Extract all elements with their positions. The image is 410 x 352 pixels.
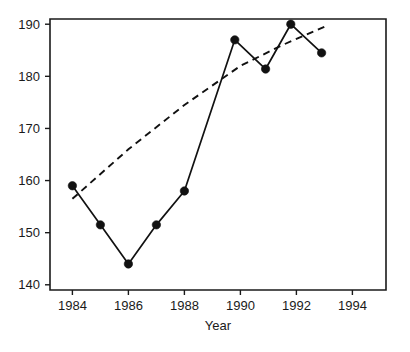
x-tick-label: 1984: [58, 298, 87, 313]
data-point-marker: [68, 182, 76, 190]
data-point-marker: [317, 49, 325, 57]
data-point-marker: [96, 221, 104, 229]
x-tick-label: 1992: [282, 298, 311, 313]
data-point-marker: [152, 221, 160, 229]
x-axis-title: Year: [205, 318, 232, 333]
data-point-marker: [231, 36, 239, 44]
x-tick-label: 1986: [114, 298, 143, 313]
x-tick-label: 1990: [226, 298, 255, 313]
data-point-marker: [180, 187, 188, 195]
data-point-marker: [124, 260, 132, 268]
y-tick-label: 170: [18, 121, 40, 136]
chart-container: 140150160170180190 198419861988199019921…: [0, 0, 410, 352]
y-tick-label: 190: [18, 17, 40, 32]
x-tick-label: 1988: [170, 298, 199, 313]
data-point-marker: [287, 20, 295, 28]
data-point-marker: [261, 65, 269, 73]
y-tick-label: 160: [18, 173, 40, 188]
y-tick-label: 150: [18, 225, 40, 240]
y-tick-label: 180: [18, 69, 40, 84]
line-chart: 140150160170180190 198419861988199019921…: [0, 0, 410, 352]
x-tick-label: 1994: [338, 298, 367, 313]
y-tick-label: 140: [18, 277, 40, 292]
